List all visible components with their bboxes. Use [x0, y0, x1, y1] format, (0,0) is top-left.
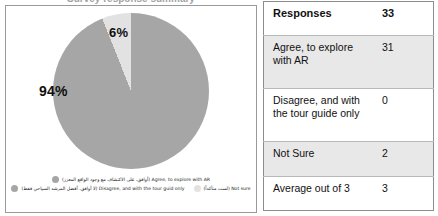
legend-row-2: Disagree, and with the tour guid only (ل… [6, 185, 256, 192]
table-cell-label: Responses [264, 2, 374, 36]
legend-label-agree: Agree, to explore with AR (أوافق، على ال… [62, 177, 210, 183]
summary-table: Responses33Agree, to explore with AR31Di… [263, 1, 434, 211]
table-cell-label: Disagree, and with the tour guide only [264, 89, 374, 142]
figure-root: 94% 6% Agree, to explore with AR (أوافق،… [0, 0, 438, 216]
pie-slice-label-agree: 94% [39, 83, 68, 99]
pie-chart-panel: 94% 6% Agree, to explore with AR (أوافق،… [0, 0, 262, 216]
table-cell-label: Agree, to explore with AR [264, 36, 374, 89]
legend-row-1: Agree, to explore with AR (أوافق، على ال… [6, 176, 256, 183]
pie-chart [53, 13, 209, 169]
summary-table-panel: Responses33Agree, to explore with AR31Di… [262, 0, 438, 216]
table-header-row: Responses33 [264, 2, 434, 36]
pie-plot-area: 94% 6% [6, 6, 256, 176]
pie-slice-label-notsure: 6% [109, 25, 128, 40]
table-row: Average out of 33 [264, 176, 434, 210]
chart-legend: Agree, to explore with AR (أوافق، على ال… [6, 175, 256, 210]
legend-label-notsure: Not sure (لست متأكداً) [204, 186, 251, 192]
table-cell-value: 2 [373, 142, 434, 176]
table-row: Disagree, and with the tour guide only0 [264, 89, 434, 142]
chart-frame: 94% 6% Agree, to explore with AR (أوافق،… [5, 5, 257, 213]
legend-swatch-icon-notsure [194, 185, 201, 192]
table-cell-label: Average out of 3 [264, 176, 374, 210]
legend-swatch-icon-disagree [11, 185, 18, 192]
legend-item-disagree[interactable]: Disagree, and with the tour guid only (ل… [11, 185, 184, 192]
table-cell-value: 33 [373, 2, 434, 36]
table-cell-value: 31 [373, 36, 434, 89]
legend-item-agree[interactable]: Agree, to explore with AR (أوافق، على ال… [52, 176, 210, 183]
legend-swatch-icon-agree [52, 176, 59, 183]
table-cell-value: 3 [373, 176, 434, 210]
legend-item-notsure[interactable]: Not sure (لست متأكداً) [194, 185, 251, 192]
table-cell-label: Not Sure [264, 142, 374, 176]
legend-label-disagree: Disagree, and with the tour guid only (ل… [21, 186, 184, 192]
table-row: Agree, to explore with AR31 [264, 36, 434, 89]
table-row: Not Sure2 [264, 142, 434, 176]
table-cell-value: 0 [373, 89, 434, 142]
